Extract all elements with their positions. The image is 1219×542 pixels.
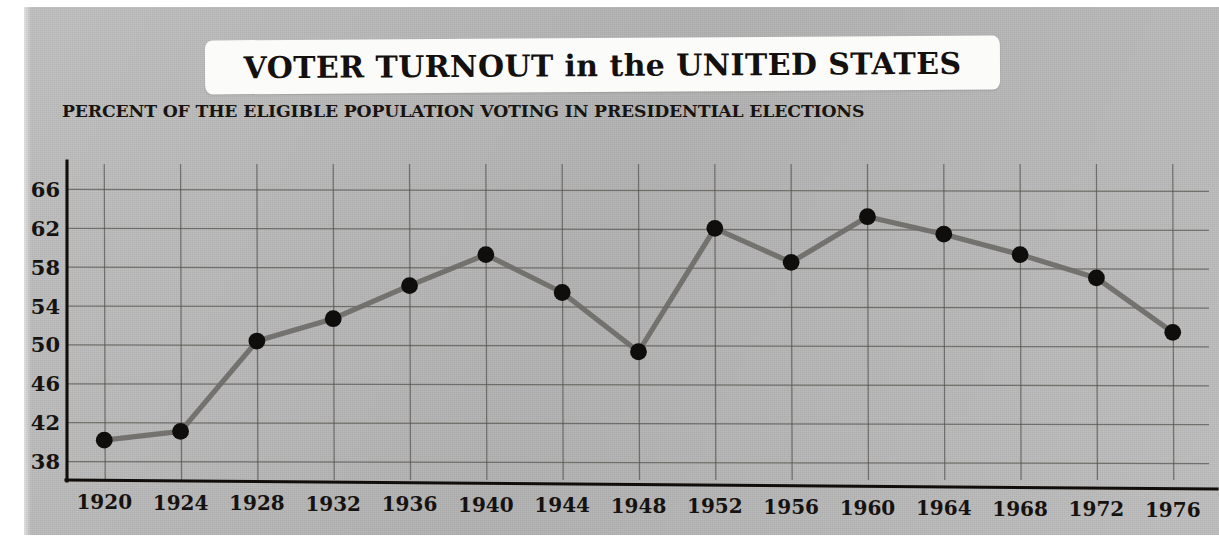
gridline-vertical [257, 164, 258, 480]
chart-subtitle: PERCENT OF THE ELIGIBLE POPULATION VOTIN… [62, 101, 1057, 121]
xtick-label: 1936 [382, 492, 438, 516]
data-point-marker [554, 284, 571, 301]
xtick-label: 1940 [458, 493, 514, 517]
gridline-vertical [1173, 164, 1174, 480]
data-point-marker [325, 310, 342, 327]
ytick-label: 54 [31, 294, 60, 319]
gridline-vertical [486, 164, 487, 480]
axis-lines-group [66, 161, 1217, 489]
xtick-label: 1932 [305, 492, 361, 516]
xtick-label: 1972 [1069, 497, 1125, 521]
xtick-label: 1920 [76, 490, 132, 514]
xtick-label: 1924 [153, 491, 209, 515]
gridline-vertical [639, 164, 640, 480]
chart-title: VOTER TURNOUT in the UNITED STATES [205, 43, 1000, 90]
ytick-label: 58 [31, 255, 60, 280]
scanned-chart-plate: 1920192419281932193619401944194819521956… [24, 7, 1219, 535]
gridline-horizontal [68, 462, 1209, 464]
ytick-label: 42 [31, 410, 60, 435]
data-point-marker [783, 254, 800, 271]
data-point-marker [1164, 324, 1181, 341]
ytick-label: 38 [31, 449, 60, 474]
data-point-marker [1012, 246, 1029, 263]
xtick-label: 1952 [687, 494, 743, 518]
ytick-labels-group: 6662585450464238 [31, 177, 60, 474]
xtick-label: 1948 [611, 494, 667, 518]
xtick-label: 1968 [992, 497, 1048, 521]
xtick-label: 1928 [229, 491, 285, 515]
xtick-label: 1976 [1145, 498, 1201, 522]
xtick-label: 1956 [763, 495, 819, 519]
xtick-label: 1944 [534, 493, 590, 517]
data-point-marker [477, 246, 494, 263]
gridline-vertical [1096, 164, 1097, 480]
x-axis-line [66, 480, 1217, 489]
gridline-vertical [410, 164, 411, 480]
gridline-vertical [944, 164, 945, 480]
xtick-label: 1960 [840, 496, 896, 520]
ytick-label: 62 [31, 216, 60, 241]
ytick-label: 50 [31, 332, 60, 357]
gridline-vertical [715, 164, 716, 480]
data-point-marker [96, 432, 113, 449]
data-point-marker [630, 343, 647, 360]
data-point-marker [1088, 270, 1105, 287]
gridline-vertical [791, 164, 792, 480]
gridlines-group [68, 164, 1209, 480]
chart-figure: 1920192419281932193619401944194819521956… [0, 0, 1219, 542]
ytick-label: 66 [31, 177, 60, 202]
gridline-vertical [562, 164, 563, 480]
ytick-label: 46 [31, 371, 60, 396]
data-point-marker [706, 220, 723, 237]
data-point-marker [859, 208, 876, 225]
data-point-marker [172, 423, 189, 440]
xtick-labels-group: 1920192419281932193619401944194819521956… [76, 490, 1200, 522]
gridline-vertical [1020, 164, 1021, 480]
gridline-horizontal [68, 384, 1209, 386]
data-point-marker [248, 333, 265, 350]
gridline-horizontal [68, 423, 1209, 425]
data-point-marker [935, 226, 952, 243]
data-point-marker [401, 277, 418, 294]
xtick-label: 1964 [916, 496, 972, 520]
